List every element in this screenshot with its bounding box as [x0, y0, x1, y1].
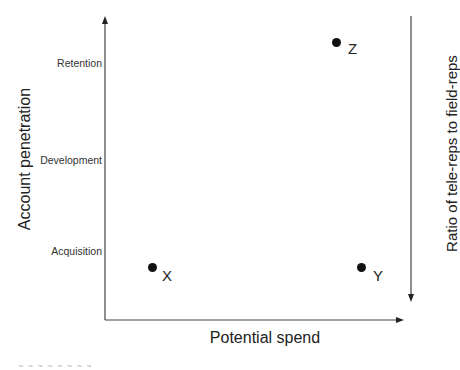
x-axis-arrow-icon [396, 317, 404, 323]
point-y-marker [357, 263, 366, 272]
y-level-acquisition: Acquisition [2, 245, 102, 257]
right-axis-title: Ratio of tele-reps to field-reps [443, 39, 460, 269]
y-level-retention: Retention [2, 57, 102, 69]
point-y [357, 263, 366, 272]
point-x-marker [148, 263, 157, 272]
point-x-label: X [162, 267, 172, 284]
point-z-marker [332, 38, 341, 47]
footer-fragment: ~ ~ ~ ~ ~ ~ ~ ~ [18, 361, 93, 370]
point-z [332, 38, 341, 47]
right-axis-arrow-icon [408, 294, 414, 302]
point-z-label: Z [348, 40, 357, 57]
point-y-label: Y [373, 267, 383, 284]
point-x [148, 263, 157, 272]
axes-svg [0, 0, 460, 370]
y-axis-arrow-icon [102, 16, 108, 24]
x-axis-title: Potential spend [185, 329, 345, 347]
y-axis-title: Account penetration [16, 79, 34, 239]
